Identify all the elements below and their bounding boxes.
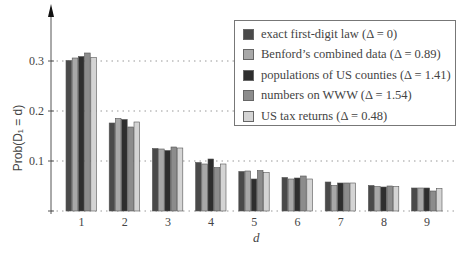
x-tick-label: 3	[165, 215, 171, 229]
bar	[393, 187, 399, 212]
bar	[152, 149, 158, 212]
bar	[418, 188, 424, 211]
bar	[115, 119, 121, 212]
bar	[177, 148, 183, 211]
bar	[128, 127, 134, 211]
x-tick-label: 8	[381, 215, 387, 229]
bar	[239, 172, 245, 212]
legend-label: Benford’s combined data (Δ = 0.89)	[261, 47, 441, 62]
bar	[251, 179, 257, 211]
legend-label: US tax returns (Δ = 0.48)	[261, 109, 387, 124]
bar	[282, 178, 288, 212]
x-tick-label: 2	[122, 215, 128, 229]
x-tick-label: 6	[295, 215, 301, 229]
bar	[72, 58, 78, 211]
legend-swatch-icon	[243, 70, 254, 81]
bar-group	[66, 53, 96, 211]
bar	[430, 191, 436, 211]
legend-item: numbers on WWW (Δ = 1.54)	[243, 86, 455, 107]
bar	[288, 179, 294, 211]
legend-label: exact first-digit law (Δ = 0)	[261, 27, 397, 42]
bar	[331, 186, 337, 212]
y-tick-label: 0.2	[29, 104, 44, 118]
bar	[350, 183, 356, 211]
x-tick-label: 7	[338, 215, 344, 229]
bar	[257, 171, 263, 212]
legend-item: populations of US counties (Δ = 1.41)	[243, 65, 455, 86]
bar	[375, 187, 381, 212]
bar	[220, 164, 226, 211]
bar	[436, 189, 442, 212]
bar	[159, 149, 165, 211]
bar	[245, 171, 251, 211]
bar	[202, 164, 208, 211]
x-tick-label: 5	[251, 215, 257, 229]
bar	[78, 57, 84, 212]
legend-item: Benford’s combined data (Δ = 0.89)	[243, 45, 455, 66]
bar	[214, 168, 220, 212]
legend-label: populations of US counties (Δ = 1.41)	[261, 68, 451, 83]
bar	[85, 53, 91, 211]
bar-group	[325, 182, 355, 211]
bar-group	[152, 147, 182, 211]
bar	[264, 173, 270, 212]
bar	[325, 182, 331, 211]
legend-item: US tax returns (Δ = 0.48)	[243, 106, 455, 127]
x-axis-label: d	[253, 230, 260, 246]
legend-item: exact first-digit law (Δ = 0)	[243, 24, 455, 45]
bar	[368, 186, 374, 212]
bar	[424, 188, 430, 211]
bar	[165, 151, 171, 212]
bar	[196, 163, 202, 212]
bar	[109, 123, 115, 211]
bar	[412, 188, 418, 211]
bar-group	[368, 186, 398, 212]
bar	[338, 183, 344, 211]
bar	[122, 120, 128, 212]
legend: exact first-digit law (Δ = 0) Benford’s …	[234, 20, 456, 126]
x-tick-label: 9	[424, 215, 430, 229]
y-tick-label: 0.3	[29, 54, 44, 68]
bar	[307, 179, 313, 211]
bar-group	[196, 159, 226, 211]
legend-label: numbers on WWW (Δ = 1.54)	[261, 88, 412, 103]
legend-swatch-icon	[243, 29, 254, 40]
arrow-up-icon	[48, 4, 54, 17]
bar	[387, 186, 393, 211]
legend-swatch-icon	[243, 49, 254, 60]
bar-group	[239, 171, 269, 212]
bar	[301, 176, 307, 211]
y-tick-label: 0.1	[29, 154, 44, 168]
y-axis-label: Prob(D₁ = d)	[11, 105, 25, 171]
bar	[171, 147, 177, 211]
legend-swatch-icon	[243, 90, 254, 101]
bar	[91, 58, 97, 212]
legend-swatch-icon	[243, 111, 254, 122]
bar-group	[412, 188, 442, 211]
bar	[134, 122, 140, 211]
x-tick-label: 1	[79, 215, 85, 229]
bar	[208, 159, 214, 211]
bar	[344, 183, 350, 211]
axes	[48, 4, 54, 214]
x-tick-label: 4	[208, 215, 214, 229]
bar	[66, 61, 72, 212]
bar-group	[109, 119, 139, 212]
bar	[294, 178, 300, 211]
bar-group	[282, 176, 312, 211]
bar	[381, 187, 387, 211]
